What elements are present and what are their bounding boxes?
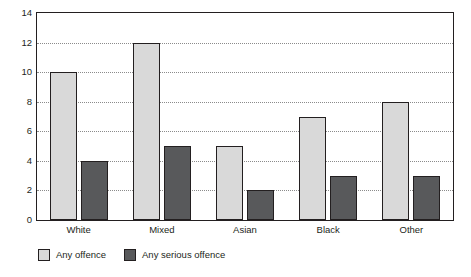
- bars-layer: [37, 13, 453, 220]
- y-axis-tick-label: 10: [0, 67, 32, 77]
- x-axis-category-labels: WhiteMixedAsianBlackOther: [37, 225, 453, 239]
- y-axis-tick-label: 4: [0, 156, 32, 166]
- x-axis-category-label: White: [66, 225, 90, 235]
- legend-item: Any serious offence: [124, 249, 225, 261]
- y-axis-tick-label: 0: [0, 215, 32, 225]
- legend-item: Any offence: [38, 249, 106, 261]
- bar: [413, 176, 440, 220]
- bar-group: [37, 13, 453, 220]
- x-axis-category-label: Mixed: [149, 225, 174, 235]
- y-axis-tick-label: 14: [0, 8, 32, 18]
- x-axis-category-label: Black: [317, 225, 340, 235]
- y-axis-tick-label: 8: [0, 97, 32, 107]
- chart-legend: Any offenceAny serious offence: [38, 249, 225, 261]
- legend-color-swatch: [124, 249, 136, 261]
- x-axis-category-label: Asian: [233, 225, 257, 235]
- legend-label: Any offence: [56, 250, 106, 260]
- legend-color-swatch: [38, 249, 50, 261]
- bar-chart: 02468101214 WhiteMixedAsianBlackOther An…: [0, 0, 471, 277]
- y-axis-tick-label: 6: [0, 127, 32, 137]
- x-axis-category-label: Other: [400, 225, 424, 235]
- y-axis-tick-labels: 02468101214: [0, 12, 32, 221]
- y-axis-tick-label: 2: [0, 186, 32, 196]
- y-axis-tick-label: 12: [0, 38, 32, 48]
- bar: [382, 102, 409, 220]
- legend-label: Any serious offence: [142, 250, 225, 260]
